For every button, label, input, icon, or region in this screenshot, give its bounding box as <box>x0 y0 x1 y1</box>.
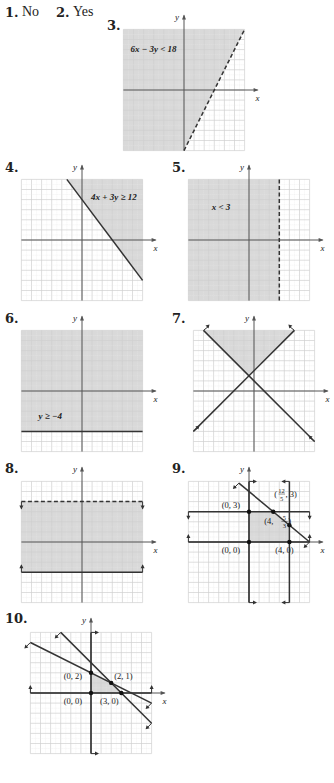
y-axis-arrow-icon <box>80 466 84 471</box>
vertex-point <box>271 510 275 514</box>
x-axis-label: x <box>153 243 158 253</box>
grid <box>30 632 151 753</box>
direction-arrow-icon <box>19 506 23 510</box>
direction-arrow-icon <box>281 479 285 483</box>
answer-2-number: 2. <box>56 5 70 20</box>
vertex-point <box>109 681 113 685</box>
direction-arrow-icon <box>150 685 154 689</box>
direction-arrow-icon <box>288 324 292 328</box>
y-axis-arrow-icon <box>252 315 256 320</box>
x-axis-arrow-icon <box>161 691 166 695</box>
direction-arrow-icon <box>309 436 313 440</box>
svg-text:, 3): , 3) <box>286 489 298 499</box>
direction-arrow-icon <box>186 534 190 538</box>
shaded-region <box>21 502 142 573</box>
direction-arrow-icon <box>304 544 308 548</box>
graph-5-number: 5. <box>172 160 186 175</box>
grid <box>21 481 142 602</box>
direction-arrow-icon <box>55 634 59 638</box>
vertex-label: (0, 3) <box>222 500 241 510</box>
direction-arrow-icon <box>281 601 285 605</box>
shaded-region <box>249 512 289 542</box>
graph-10: xy(0, 2)(2, 1)(0, 0)(3, 0) <box>0 0 334 783</box>
x-axis-label: x <box>325 394 330 404</box>
y-axis-arrow-icon <box>80 164 84 169</box>
inequality-label: 6x − 3y < 18 <box>130 44 177 54</box>
y-axis-arrow-icon <box>247 164 251 169</box>
direction-arrow-icon <box>141 506 145 510</box>
direction-arrow-icon <box>24 645 28 649</box>
vertex-label: (0, 2) <box>64 671 83 681</box>
vertex-point <box>247 510 251 514</box>
y-axis-label: y <box>239 162 244 172</box>
x-axis-arrow-icon <box>152 389 157 393</box>
y-axis-arrow-icon <box>247 466 251 471</box>
direction-arrow-icon <box>95 630 99 634</box>
x-axis-arrow-icon <box>254 88 259 92</box>
graph-8-number: 8. <box>5 461 19 476</box>
boundary-line <box>67 179 143 280</box>
axes: xy <box>21 464 157 602</box>
svg-text:): ) <box>288 516 291 526</box>
y-axis-label: y <box>72 464 77 474</box>
x-axis-label: x <box>255 93 260 103</box>
inequality-label: 4x + 3y ≥ 12 <box>90 192 137 202</box>
direction-arrow-icon <box>146 705 150 709</box>
svg-text:(: ( <box>274 489 277 499</box>
graph-5: xyx < 3 <box>0 0 334 783</box>
vertex-point <box>89 691 93 695</box>
graph-7-number: 7. <box>172 311 186 326</box>
x-axis-arrow-icon <box>152 238 157 242</box>
direction-arrow-icon <box>186 516 190 520</box>
grid <box>188 179 309 300</box>
direction-arrow-icon <box>141 564 145 568</box>
shaded-region <box>123 29 244 150</box>
answer-1-number: 1. <box>5 5 19 20</box>
direction-arrow-icon <box>308 534 312 538</box>
axes: xy <box>188 464 324 602</box>
x-axis-arrow-icon <box>319 540 324 544</box>
direction-arrow-icon <box>308 516 312 520</box>
vertex-point <box>247 540 251 544</box>
x-axis-arrow-icon <box>152 540 157 544</box>
x-axis-arrow-icon <box>324 389 329 393</box>
answer-1-text: No <box>22 4 39 20</box>
vertex-point <box>287 523 291 527</box>
vertex-point <box>119 691 123 695</box>
direction-arrow-icon <box>146 725 150 729</box>
boundary-line <box>184 29 245 150</box>
graph-3: xy6x − 3y < 18 <box>0 0 334 783</box>
shaded-region <box>188 179 279 300</box>
axes: xy <box>21 313 157 451</box>
graph-8: xy <box>0 0 334 783</box>
axes: xy <box>193 313 329 451</box>
graph-3-number: 3. <box>107 18 121 33</box>
shaded-region <box>21 330 142 431</box>
x-axis-label: x <box>320 545 325 555</box>
direction-arrow-icon <box>253 479 257 483</box>
boundary-line <box>193 330 294 431</box>
svg-text:5: 5 <box>280 495 283 502</box>
graph-4-number: 4. <box>5 160 19 175</box>
vertex-label: (125, 3) <box>274 487 297 502</box>
y-axis-arrow-icon <box>80 315 84 320</box>
boundary-line <box>239 483 310 542</box>
inequality-label: y ≥ −4 <box>38 411 63 421</box>
y-axis-label: y <box>239 464 244 474</box>
svg-text:(4,: (4, <box>264 516 273 526</box>
y-axis-arrow-icon <box>182 14 186 19</box>
grid <box>188 481 309 602</box>
vertex-label: (2, 1) <box>114 671 133 681</box>
vertex-point <box>287 540 291 544</box>
x-axis-label: x <box>153 394 158 404</box>
direction-arrow-icon <box>19 564 23 568</box>
direction-arrow-icon <box>28 685 32 689</box>
x-axis-label: x <box>153 545 158 555</box>
y-axis-label: y <box>72 162 77 172</box>
axes: xy <box>21 162 157 300</box>
graph-9: xy(0, 3)(0, 0)(4, 0)(125, 3)(4, 53) <box>0 0 334 783</box>
grid <box>123 29 244 150</box>
grid <box>193 330 314 451</box>
boundary-line <box>61 632 152 723</box>
y-axis-label: y <box>81 615 86 625</box>
